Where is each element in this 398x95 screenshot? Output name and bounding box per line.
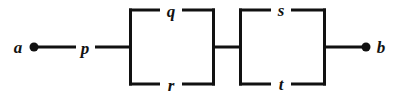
terminal-node-a [30, 43, 39, 52]
terminal-label-a: a [10, 39, 27, 56]
edge-label-p: p [77, 40, 94, 57]
terminal-node-b [362, 43, 371, 52]
edge-label-r: r [164, 77, 179, 94]
diagram-canvas [0, 0, 398, 95]
edge-label-t: t [275, 76, 288, 93]
edge-label-q: q [163, 3, 180, 20]
terminal-label-b: b [373, 39, 390, 56]
edge-label-s: s [274, 2, 289, 19]
network-diagram: a p q r s t b [0, 0, 398, 95]
